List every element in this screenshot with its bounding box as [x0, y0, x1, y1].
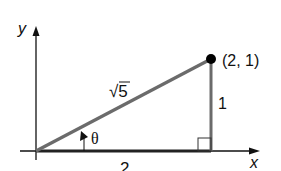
- angle-label: θ: [91, 130, 99, 147]
- y-axis: [33, 26, 40, 160]
- x-axis-label: x: [249, 154, 259, 171]
- hypotenuse-label: √5: [109, 82, 128, 101]
- point-marker: [206, 54, 216, 64]
- hypotenuse-side: [36, 59, 211, 151]
- right-angle-marker: [198, 138, 211, 151]
- opposite-label: 1: [218, 95, 227, 112]
- angle-arc: [80, 131, 88, 151]
- y-axis-arrow-icon: [33, 26, 40, 36]
- point-label: (2, 1): [222, 52, 259, 69]
- diagram-canvas: y x (2, 1) √5 1 2 θ: [0, 0, 281, 171]
- y-axis-label: y: [17, 20, 27, 37]
- adjacent-label: 2: [120, 159, 129, 171]
